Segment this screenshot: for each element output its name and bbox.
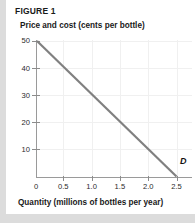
x-tick-label-1.5: 1.5: [109, 182, 131, 191]
demand-curve: [36, 40, 192, 178]
x-tick-label-2.0: 2.0: [137, 182, 159, 191]
x-tick-label-2.5: 2.5: [166, 182, 188, 191]
y-tick-label-50: 50: [12, 36, 30, 45]
x-axis-label: Quantity (millions of bottles per year): [18, 198, 163, 207]
y-tick-label-30: 30: [12, 91, 30, 100]
y-axis-label: Price and cost (cents per bottle): [20, 21, 145, 30]
x-tick-label-1.0: 1.0: [81, 182, 103, 191]
y-tick-label-20: 20: [12, 118, 30, 127]
figure-title: FIGURE 1: [15, 6, 56, 16]
y-tick-label-10: 10: [12, 145, 30, 154]
curve-label-d: D: [180, 156, 187, 166]
plot-area: D: [36, 40, 192, 178]
x-tick-label-0: 0: [25, 182, 47, 191]
x-tick-label-0.5: 0.5: [52, 182, 74, 191]
y-tick-label-40: 40: [12, 64, 30, 73]
figure-card: FIGURE 1 Price and cost (cents per bottl…: [6, 0, 195, 214]
